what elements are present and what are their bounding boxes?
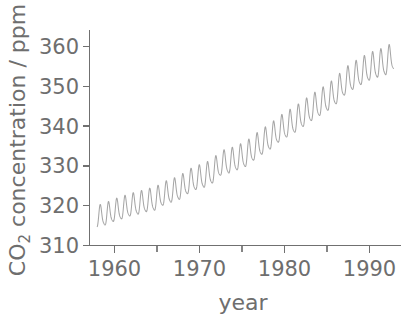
y-tick-label-360: 360: [39, 35, 79, 59]
x-axis-title: year: [218, 290, 268, 315]
y-tick-label-320: 320: [39, 194, 79, 218]
y-axis-title-subscript: 2: [16, 234, 34, 244]
y-tick-label-310: 310: [39, 234, 79, 258]
x-tick-label-1960: 1960: [88, 257, 141, 281]
y-axis-title-prefix: CO: [5, 243, 30, 276]
x-tick-label-1990: 1990: [343, 257, 396, 281]
y-tick-label-340: 340: [39, 115, 79, 139]
x-tick-label-1980: 1980: [258, 257, 311, 281]
chart-figure: 310 320 330 340 350 360 1960 1970 1980 1…: [0, 0, 415, 321]
y-tick-label-330: 330: [39, 154, 79, 178]
x-tick-label-1970: 1970: [173, 257, 226, 281]
y-axis-title-suffix: concentration / ppm: [5, 4, 30, 234]
keeling-curve-chart: 310 320 330 340 350 360 1960 1970 1980 1…: [0, 0, 415, 321]
y-tick-label-350: 350: [39, 75, 79, 99]
